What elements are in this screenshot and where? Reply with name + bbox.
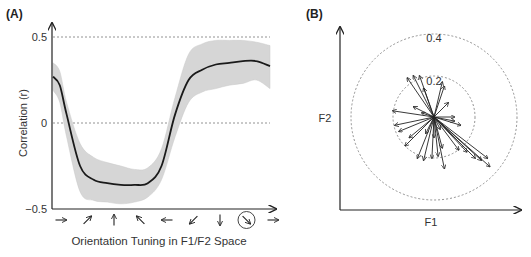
vector-arrow — [395, 117, 434, 125]
correlation-vectors — [393, 76, 490, 169]
panel-a: (A) 0.5 0 −0.5 Correlation (r) Orientati… — [6, 7, 279, 247]
x-tick-arrow-icon — [84, 216, 92, 224]
panel-b-tag: (B) — [306, 7, 323, 21]
x-tick-arrow-icon — [243, 216, 251, 224]
panel-b: (B) F1 F2 0.4 0.2 — [306, 7, 521, 228]
ring-label-0-4: 0.4 — [426, 32, 441, 44]
x-tick-arrow-icon — [137, 216, 145, 224]
y-axis-label: Correlation (r) — [17, 89, 29, 157]
panel-a-tag: (A) — [6, 7, 23, 21]
f2-axis-label: F2 — [319, 112, 332, 124]
ring-label-0-2: 0.2 — [426, 75, 441, 87]
f1-axis-label: F1 — [425, 216, 438, 228]
x-tick-arrows — [56, 212, 279, 229]
y-tick-0: 0 — [41, 117, 47, 129]
x-tick-arrow-icon — [190, 216, 198, 224]
confidence-band — [53, 40, 270, 204]
y-tick-0-5: 0.5 — [32, 31, 47, 43]
figure: (A) 0.5 0 −0.5 Correlation (r) Orientati… — [0, 0, 531, 257]
vector-arrow — [434, 82, 442, 117]
x-axis-label: Orientation Tuning in F1/F2 Space — [71, 235, 246, 247]
vector-arrow — [434, 117, 488, 158]
vector-arrow — [434, 117, 438, 156]
y-tick-neg-0-5: −0.5 — [25, 203, 47, 215]
vector-arrow — [405, 117, 434, 146]
